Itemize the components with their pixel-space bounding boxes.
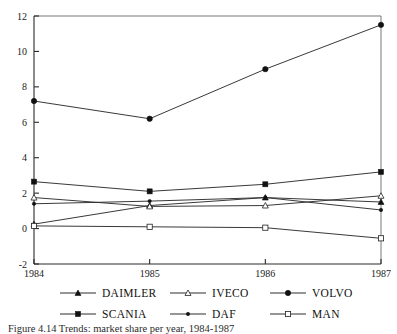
filled-square-icon — [379, 169, 384, 174]
line-chart: -2024681012 1984198519861987 DAIMLERIVEC… — [0, 0, 397, 334]
x-tick-label: 1986 — [255, 268, 275, 279]
x-tick-label: 1984 — [24, 268, 44, 279]
data-point-marker — [378, 236, 383, 241]
y-tick-label: 0 — [22, 223, 27, 234]
legend-label: VOLVO — [312, 287, 353, 299]
data-point-marker — [263, 225, 268, 230]
data-point-marker — [31, 223, 36, 228]
legend-label: MAN — [312, 308, 340, 320]
open-square-icon — [147, 224, 152, 229]
filled-circle-icon — [31, 98, 36, 103]
x-tick-label: 1987 — [371, 268, 391, 279]
open-square-icon — [378, 236, 383, 241]
small-filled-icon — [264, 196, 267, 199]
data-point-marker — [186, 312, 189, 315]
data-point-marker — [147, 189, 152, 194]
data-point-marker — [263, 182, 268, 187]
data-point-marker — [285, 290, 290, 295]
data-point-marker — [147, 224, 152, 229]
filled-square-icon — [76, 312, 81, 317]
legend-label: IVECO — [212, 287, 249, 299]
y-tick-label: 12 — [17, 11, 27, 22]
chart-container: -2024681012 1984198519861987 DAIMLERIVEC… — [0, 0, 397, 334]
filled-circle-icon — [285, 290, 290, 295]
open-square-icon — [285, 311, 290, 316]
data-point-marker — [76, 312, 81, 317]
open-square-icon — [263, 225, 268, 230]
data-point-marker — [379, 169, 384, 174]
filled-circle-icon — [263, 66, 268, 71]
filled-circle-icon — [378, 22, 383, 27]
data-point-marker — [379, 208, 382, 211]
legend-label: DAF — [212, 308, 236, 320]
figure-caption: Figure 4.14 Trends: market share per yea… — [8, 323, 234, 334]
y-tick-label: 8 — [22, 81, 27, 92]
data-point-marker — [148, 199, 151, 202]
filled-square-icon — [32, 179, 37, 184]
data-point-marker — [263, 66, 268, 71]
data-point-marker — [31, 98, 36, 103]
data-point-marker — [264, 196, 267, 199]
legend-label: SCANIA — [102, 308, 147, 320]
data-point-marker — [32, 179, 37, 184]
filled-circle-icon — [147, 116, 152, 121]
y-tick-label: 4 — [22, 152, 27, 163]
x-tick-label: 1985 — [140, 268, 160, 279]
y-tick-label: 10 — [17, 46, 27, 57]
legend-label: DAIMLER — [102, 287, 157, 299]
data-point-marker — [378, 22, 383, 27]
small-filled-icon — [32, 202, 35, 205]
y-tick-label: 2 — [22, 188, 27, 199]
small-filled-icon — [379, 208, 382, 211]
data-point-marker — [32, 202, 35, 205]
data-point-marker — [147, 116, 152, 121]
open-square-icon — [31, 223, 36, 228]
y-tick-label: 6 — [22, 117, 27, 128]
small-filled-icon — [148, 199, 151, 202]
filled-square-icon — [147, 189, 152, 194]
filled-square-icon — [263, 182, 268, 187]
data-point-marker — [285, 311, 290, 316]
small-filled-icon — [186, 312, 189, 315]
chart-background — [0, 0, 397, 334]
